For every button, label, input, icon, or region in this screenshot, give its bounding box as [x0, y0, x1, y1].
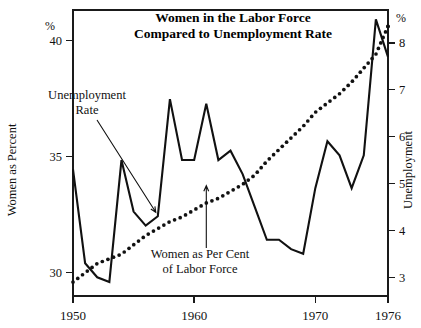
series-dot — [132, 243, 136, 247]
series-dot — [346, 84, 350, 88]
chart-figure: 303540 345678 1950196019701976 % % Women… — [0, 0, 421, 328]
series-dot — [95, 262, 99, 266]
x-tick-label: 1976 — [375, 308, 402, 323]
series-dot — [194, 207, 198, 211]
left-axis-title: Women as Percent — [5, 123, 19, 216]
series-dot — [226, 191, 230, 195]
left-tick-label: 30 — [50, 266, 63, 280]
series-dot — [246, 178, 250, 182]
series-dot — [323, 103, 327, 107]
unemployment-rate-leader-line — [97, 120, 156, 212]
left-tick-label: 40 — [50, 34, 63, 48]
series-dot — [167, 220, 171, 224]
series-dot — [184, 213, 188, 217]
left-axis-tick-labels: 303540 — [50, 34, 63, 281]
series-dot — [358, 70, 362, 74]
series-dot — [384, 30, 388, 34]
series-dot — [259, 166, 263, 170]
series-dot — [141, 236, 145, 240]
women-share-annotation-line2: of Labor Force — [163, 262, 238, 276]
women-share-annotation: Women as Per Cent of Labor Force — [151, 186, 250, 276]
series-dot — [237, 185, 241, 189]
x-axis-ticks — [73, 296, 388, 303]
right-axis-percent-symbol: % — [396, 11, 406, 25]
series-dot — [152, 229, 156, 233]
series-dot — [319, 106, 323, 110]
series-dot — [76, 277, 80, 281]
series-dot — [106, 257, 110, 261]
series-dot — [366, 61, 370, 65]
series-dot — [157, 226, 161, 230]
chart-title-line1: Women in the Labor Force — [155, 10, 311, 25]
series-dot — [146, 232, 150, 236]
series-dot — [338, 92, 342, 96]
series-dot — [381, 36, 385, 40]
series-dot — [310, 115, 314, 119]
right-tick-label: 7 — [399, 83, 405, 97]
women-share-leader-line — [204, 186, 209, 248]
series-dot — [216, 197, 220, 201]
series-dot — [117, 253, 121, 257]
series-dot — [276, 149, 280, 153]
chart-canvas: 303540 345678 1950196019701976 % % Women… — [0, 0, 421, 328]
series-dot — [314, 110, 318, 114]
series-dot — [298, 128, 302, 132]
series-dot — [362, 66, 366, 70]
unemployment-rate-annotation-line2: Rate — [76, 103, 99, 117]
left-tick-label: 35 — [50, 150, 63, 164]
series-dot — [127, 247, 131, 251]
series-dot — [351, 79, 355, 83]
series-unemployment-rate — [73, 19, 388, 282]
right-tick-label: 3 — [399, 271, 405, 285]
series-dot — [162, 223, 166, 227]
series-dot — [379, 41, 383, 45]
x-tick-label: 1950 — [60, 308, 86, 323]
series-dot — [333, 96, 337, 100]
chart-title-line2: Compared to Unemployment Rate — [134, 26, 332, 41]
series-dot — [85, 269, 89, 273]
series-dot — [71, 280, 75, 284]
series-dot — [306, 119, 310, 123]
series-dot — [81, 273, 85, 277]
series-dot — [355, 75, 359, 79]
series-dot — [178, 216, 182, 220]
series-dot — [302, 124, 306, 128]
series-dot — [221, 194, 225, 198]
series-dot — [90, 266, 94, 270]
series-dot — [210, 199, 214, 203]
left-axis-ticks — [66, 40, 73, 273]
series-dot — [280, 145, 284, 149]
series-dot — [255, 170, 259, 174]
series-dot — [370, 57, 374, 61]
right-axis-ticks — [388, 43, 395, 277]
x-axis-tick-labels: 1950196019701976 — [60, 308, 402, 323]
series-dot — [189, 210, 193, 214]
series-dot — [263, 161, 267, 165]
left-axis-percent-symbol: % — [45, 19, 55, 33]
series-dot — [342, 88, 346, 92]
series-dot — [293, 132, 297, 136]
series-dot — [122, 250, 126, 254]
series-dot — [328, 99, 332, 103]
unemployment-rate-annotation: Unemployment Rate — [48, 88, 156, 212]
series-dot — [272, 153, 276, 157]
right-tick-label: 4 — [399, 224, 406, 238]
women-share-annotation-line1: Women as Per Cent — [151, 247, 250, 261]
series-dot — [285, 140, 289, 144]
series-dot — [386, 24, 390, 28]
x-tick-label: 1970 — [302, 308, 328, 323]
series-dot — [173, 218, 177, 222]
series-dot — [251, 175, 255, 179]
right-tick-label: 8 — [399, 36, 405, 50]
series-dot — [267, 157, 271, 161]
series-dot — [377, 47, 381, 51]
series-dot — [199, 204, 203, 208]
series-dot — [374, 52, 378, 56]
x-tick-label: 1960 — [181, 308, 207, 323]
right-axis-title: Unemployment — [401, 131, 415, 209]
series-dot — [100, 260, 104, 264]
series-dot — [242, 182, 246, 186]
series-dot — [231, 188, 235, 192]
series-dot — [137, 239, 141, 243]
series-dot — [112, 255, 116, 259]
